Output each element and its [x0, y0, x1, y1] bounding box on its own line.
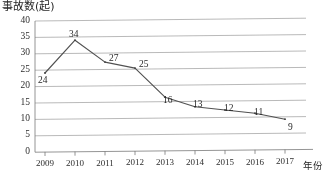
- x-tick-label-2014: 2014: [178, 157, 212, 167]
- gridline-25: [35, 67, 306, 70]
- x-axis-title: 年份: [303, 158, 323, 172]
- x-tick-label-2010: 2010: [58, 158, 92, 168]
- x-tick-label-2013: 2013: [148, 157, 182, 167]
- y-tick-label-20: 20: [8, 80, 30, 90]
- data-line-series-accidents: [45, 40, 285, 119]
- y-tick-label-15: 15: [8, 97, 30, 107]
- y-tick-label-5: 5: [8, 129, 30, 139]
- x-tick-label-2012: 2012: [118, 157, 152, 167]
- gridline-10: [35, 117, 306, 120]
- data-label-2014: 13: [193, 99, 203, 109]
- y-tick-label-35: 35: [8, 31, 30, 41]
- data-label-2016: 11: [254, 107, 263, 117]
- y-tick-label-0: 0: [8, 146, 30, 156]
- gridline-40: [35, 18, 306, 21]
- gridline-5: [35, 133, 306, 136]
- data-point-2012: [134, 67, 136, 69]
- y-tick-label-30: 30: [8, 47, 30, 57]
- chart-canvas: [0, 0, 327, 180]
- accident-count-line-chart: 事故数(起): [0, 0, 327, 180]
- y-tick-label-10: 10: [8, 113, 30, 123]
- data-label-2012: 25: [139, 59, 149, 69]
- gridline-30: [35, 51, 306, 54]
- x-tick-label-2016: 2016: [238, 157, 272, 167]
- data-point-2011: [104, 61, 106, 63]
- data-label-2015: 12: [224, 103, 234, 113]
- x-tick-label-2009: 2009: [28, 158, 62, 168]
- data-label-2009: 24: [38, 75, 48, 85]
- x-tick-label-2011: 2011: [88, 158, 122, 168]
- x-tick-label-2017: 2017: [268, 156, 302, 166]
- gridline-20: [35, 84, 306, 87]
- data-label-2013: 16: [163, 95, 173, 105]
- data-label-2017: 9: [288, 122, 293, 132]
- x-axis-line: [35, 149, 313, 152]
- x-tick-label-2015: 2015: [208, 157, 242, 167]
- data-label-2011: 27: [109, 53, 119, 63]
- x-tick-marks-group: [45, 150, 285, 157]
- data-point-2010: [74, 39, 76, 41]
- y-tick-label-40: 40: [8, 15, 30, 25]
- data-label-2010: 34: [69, 29, 79, 39]
- y-tick-label-25: 25: [8, 64, 30, 74]
- data-point-2017: [284, 118, 286, 120]
